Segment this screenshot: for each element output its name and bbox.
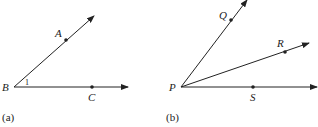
- ray-PQ: [181, 0, 247, 87]
- point-C: [90, 85, 94, 89]
- point-S: [251, 85, 255, 89]
- label-R: R: [276, 37, 284, 49]
- point-A: [64, 38, 68, 42]
- label-S: S: [250, 91, 256, 103]
- point-Q: [229, 18, 233, 22]
- ray-PR: [181, 43, 309, 87]
- label-A: A: [54, 27, 62, 39]
- angle-diagram: A B C 1 (a) Q R P S (b): [0, 0, 318, 127]
- caption-a: (a): [2, 111, 15, 124]
- label-P: P: [168, 81, 176, 93]
- ray-BA: [14, 16, 94, 87]
- figure-b: Q R P S (b): [166, 0, 317, 124]
- label-Q: Q: [219, 9, 227, 21]
- label-C: C: [88, 91, 96, 103]
- figure-a: A B C 1 (a): [2, 16, 128, 124]
- label-B: B: [2, 81, 9, 93]
- caption-b: (b): [166, 111, 179, 124]
- point-R: [283, 50, 287, 54]
- angle-label-1: 1: [25, 78, 29, 87]
